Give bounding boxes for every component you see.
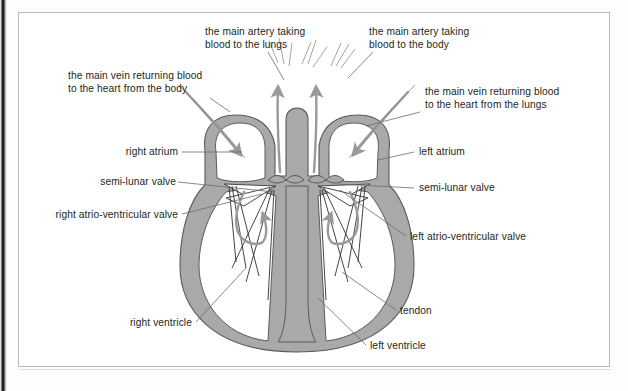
label-semi-lunar-valve-right: semi-lunar valve (419, 182, 495, 195)
figure-page: the main artery taking blood to the lung… (0, 0, 628, 391)
label-left-ventricle: left ventricle (370, 340, 426, 353)
label-right-atrium: right atrium (58, 146, 178, 159)
label-tendon: tendon (400, 305, 432, 318)
label-right-av-valve: right atrio-ventricular valve (10, 209, 178, 222)
label-right-ventricle: right ventricle (62, 317, 192, 330)
label-left-atrium: left atrium (419, 146, 465, 159)
label-main-artery-lungs: the main artery taking blood to the lung… (205, 26, 305, 51)
leader-main-artery-body (348, 52, 373, 78)
leader-main-vein-body (210, 98, 230, 112)
heart-muscle-and-chambers (179, 38, 415, 352)
label-semi-lunar-valve-left: semi-lunar valve (38, 176, 176, 189)
heart-diagram-illustration (0, 0, 628, 391)
leader-main-artery-lungs (268, 52, 284, 80)
label-main-artery-body: the main artery taking blood to the body (369, 26, 469, 51)
label-main-vein-lungs: the main vein returning blood to the hea… (425, 86, 559, 111)
label-left-av-valve: left atrio-ventricular valve (410, 231, 526, 244)
label-main-vein-body: the main vein returning blood to the hea… (68, 70, 202, 95)
